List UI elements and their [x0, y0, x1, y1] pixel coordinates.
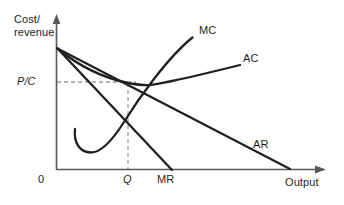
ar-curve	[58, 49, 291, 170]
x-axis-arrowhead	[315, 165, 326, 173]
quantity-label: Q	[123, 173, 132, 186]
y-axis-label-line2: revenue	[14, 26, 54, 38]
mr-curve-label: MR	[157, 173, 174, 186]
ar-curve-label: AR	[253, 138, 268, 151]
y-axis-label: Cost/revenue	[14, 13, 54, 38]
price-cost-label: P/C	[17, 75, 36, 88]
mc-curve	[75, 38, 193, 153]
mc-curve-label: MC	[199, 24, 216, 37]
mr-curve	[58, 49, 173, 171]
ac-curve-label: AC	[243, 52, 258, 65]
economics-diagram: Cost/revenue Output P/C 0 Q MR MC AC AR	[0, 0, 344, 205]
y-axis-label-line1: Cost/	[14, 13, 40, 25]
ac-curve	[58, 49, 241, 86]
origin-label: 0	[38, 173, 44, 186]
x-axis-label: Output	[285, 176, 319, 189]
